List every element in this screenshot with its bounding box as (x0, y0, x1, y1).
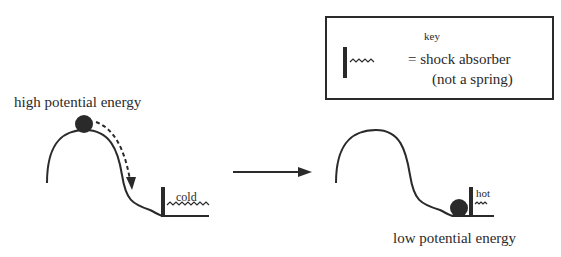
key-wavy-line-icon (350, 59, 374, 62)
low-potential-energy-label: low potential energy (393, 230, 516, 247)
key-shock-absorber-bar-icon (343, 47, 347, 78)
high-potential-energy-label: high potential energy (14, 94, 141, 111)
right-shock-absorber-bar (469, 187, 473, 217)
arrowhead-icon (126, 177, 136, 190)
ball-low (450, 199, 468, 217)
cold-label: cold (176, 190, 197, 205)
falling-path-dashed-arrow (96, 122, 130, 180)
transition-arrowhead-icon (298, 167, 312, 177)
ball-high (75, 115, 93, 133)
right-wavy-line-icon (475, 202, 487, 204)
hot-label: hot (476, 187, 490, 199)
key-description-line2: (not a spring) (432, 71, 513, 88)
key-description-line1: = shock absorber (408, 51, 511, 68)
diagram-canvas (0, 0, 561, 257)
key-title: key (424, 30, 440, 42)
left-shock-absorber-bar (161, 187, 165, 217)
